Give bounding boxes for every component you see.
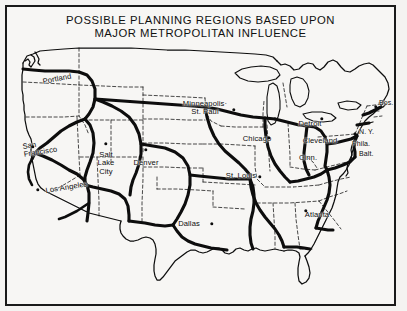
map-ink [22, 48, 389, 284]
city-label-cleveland: Cleveland [303, 137, 338, 145]
us-planning-regions-map [7, 7, 396, 306]
city-label-cincinnati: Cinn. [299, 154, 317, 162]
city-label-atlanta: Atlanta [305, 211, 329, 219]
city-label-new-york: N. Y. [359, 128, 374, 136]
national-outline [22, 48, 389, 284]
city-label-minneapolis-st-paul: Minneapolis· St. Paul [183, 100, 227, 117]
city-label-salt-lake-city: Salt Lake City [98, 151, 115, 176]
planning-region-boundaries [23, 69, 381, 250]
city-label-boston: Bos. [379, 99, 393, 107]
city-label-dallas: Dallas [178, 220, 200, 228]
map-figure-frame: POSSIBLE PLANNING REGIONS BASED UPON MAJ… [5, 5, 396, 306]
city-label-st-louis: St. Louis [226, 172, 256, 180]
city-label-baltimore: Balt. [359, 150, 374, 158]
city-label-denver: Denver [133, 159, 158, 167]
city-label-philadelphia: Phila. [352, 140, 370, 148]
city-label-detroit: Detroit [298, 120, 321, 128]
